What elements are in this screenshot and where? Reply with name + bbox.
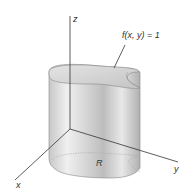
surface-label: f(x, y) = 1 xyxy=(122,30,160,40)
z-axis-label: z xyxy=(73,14,78,24)
x-axis-label: x xyxy=(16,180,21,190)
y-axis-label: y xyxy=(174,164,179,174)
surface-label-leader xyxy=(114,45,125,68)
region-label: R xyxy=(96,158,103,168)
cylinder-solid xyxy=(49,64,140,178)
